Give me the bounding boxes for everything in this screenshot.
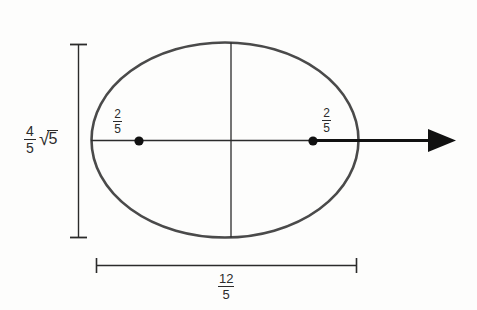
vertical-dimension-label: 4 5 √ 5 — [24, 124, 57, 155]
fraction-two-fifths-left: 2 5 — [113, 108, 122, 135]
fraction-denominator: 5 — [113, 123, 122, 135]
fraction-denominator: 5 — [222, 288, 231, 301]
fraction-denominator: 5 — [25, 141, 35, 155]
left-focus-point — [134, 136, 143, 145]
fraction-numerator: 4 — [25, 124, 35, 138]
ellipse-diagram — [0, 0, 477, 310]
arrowhead-icon — [428, 129, 456, 152]
horizontal-dimension-label: 12 5 — [218, 272, 234, 301]
fraction-twelve-fifths: 12 5 — [218, 272, 234, 301]
square-root-icon: √ 5 — [39, 130, 57, 148]
right-focus-point — [308, 136, 317, 145]
fraction-numerator: 12 — [218, 272, 234, 285]
fraction-denominator: 5 — [322, 122, 331, 134]
fraction-four-fifths: 4 5 — [24, 124, 36, 155]
fraction-numerator: 2 — [322, 107, 331, 119]
fraction-two-fifths-right: 2 5 — [322, 107, 331, 134]
left-focus-label: 2 5 — [113, 108, 122, 135]
fraction-numerator: 2 — [113, 108, 122, 120]
right-focus-label: 2 5 — [322, 107, 331, 134]
radicand-value: 5 — [48, 130, 57, 147]
figure-canvas: 4 5 √ 5 2 5 2 5 12 5 — [0, 0, 477, 310]
